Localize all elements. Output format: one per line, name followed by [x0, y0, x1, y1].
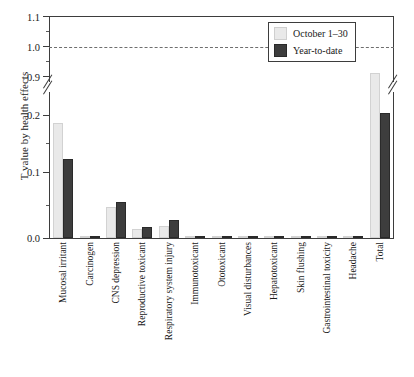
- x-label-cell: Carcinogen: [76, 240, 102, 376]
- bar-year-to-date: [327, 236, 337, 238]
- x-tick-label: Total: [375, 242, 385, 261]
- bar-year-to-date: [353, 236, 363, 238]
- bar-october: [185, 236, 195, 238]
- legend-swatch-october: [274, 27, 287, 40]
- bar-group: [182, 17, 208, 238]
- legend-label-october: October 1–30: [293, 28, 348, 39]
- x-tick-label: Headache: [348, 242, 358, 279]
- bar-year-to-date: [142, 227, 152, 238]
- bar-group: [208, 17, 234, 238]
- x-label-cell: Total: [367, 240, 393, 376]
- bar-group: [50, 17, 76, 238]
- chart-legend: October 1–30 Year-to-date: [268, 22, 356, 62]
- x-label-cell: Ototoxicant: [208, 240, 234, 376]
- x-tick-label: Mucosal irritant: [58, 242, 68, 303]
- bar-group: [76, 17, 102, 238]
- legend-swatch-year-to-date: [274, 44, 287, 57]
- bar-october: [132, 229, 142, 238]
- x-tick-label: Carcinogen: [85, 242, 95, 286]
- bar-october: [370, 73, 380, 238]
- bar-october: [343, 236, 353, 238]
- bar-october: [80, 236, 90, 238]
- x-tick-label: Reproductive toxicant: [137, 242, 147, 326]
- bar-group: [156, 17, 182, 238]
- x-label-cell: Respiratory system injury: [156, 240, 182, 376]
- bar-year-to-date: [63, 159, 73, 238]
- bar-year-to-date: [195, 236, 205, 238]
- legend-item-october: October 1–30: [274, 27, 348, 40]
- y-tick-label-0-2: 0.2: [8, 110, 40, 121]
- x-axis-line: [49, 238, 394, 239]
- x-tick-label: Gastrointestinal toxicity: [322, 242, 332, 334]
- x-tick-label: Skin flushing: [296, 242, 306, 293]
- bar-group: [129, 17, 155, 238]
- bar-year-to-date: [380, 113, 390, 238]
- x-tick-label: Ototoxicant: [217, 242, 227, 287]
- chart-figure: T value by health effects 1.1 1.0 0.9 0.…: [0, 0, 414, 377]
- x-label-cell: Headache: [340, 240, 366, 376]
- x-label-cell: Gastrointestinal toxicity: [314, 240, 340, 376]
- x-tick-label: Visual disturbances: [243, 242, 253, 316]
- bar-year-to-date: [248, 236, 258, 238]
- bar-october: [53, 123, 63, 238]
- x-label-cell: Mucosal irritant: [50, 240, 76, 376]
- x-label-cell: Hepatotoxicant: [261, 240, 287, 376]
- x-label-cell: CNS depression: [103, 240, 129, 376]
- bar-year-to-date: [222, 236, 232, 238]
- x-axis-labels: Mucosal irritantCarcinogenCNS depression…: [50, 240, 393, 376]
- y-tick-label-0-1: 0.1: [8, 167, 40, 178]
- y-tick-label-0-9: 0.9: [8, 72, 40, 83]
- x-label-cell: Immunotoxicant: [182, 240, 208, 376]
- bar-year-to-date: [274, 236, 284, 238]
- bar-year-to-date: [116, 202, 126, 238]
- legend-label-year-to-date: Year-to-date: [293, 45, 342, 56]
- bar-year-to-date: [169, 220, 179, 238]
- bar-october: [317, 236, 327, 238]
- legend-item-year-to-date: Year-to-date: [274, 44, 348, 57]
- bar-year-to-date: [90, 236, 100, 238]
- y-tick-label-1-1: 1.1: [8, 12, 40, 23]
- bar-october: [106, 207, 116, 238]
- x-tick-label: Hepatotoxicant: [269, 242, 279, 300]
- x-label-cell: Skin flushing: [288, 240, 314, 376]
- y-tick-label-0-0: 0.0: [8, 233, 40, 244]
- bar-october: [291, 236, 301, 238]
- bar-year-to-date: [301, 236, 311, 238]
- bar-group: [103, 17, 129, 238]
- bar-october: [264, 236, 274, 238]
- x-tick-label: CNS depression: [111, 242, 121, 304]
- bar-group: [367, 17, 393, 238]
- x-label-cell: Visual disturbances: [235, 240, 261, 376]
- bar-october: [159, 226, 169, 238]
- x-tick-label: Respiratory system injury: [164, 242, 174, 340]
- bar-group: [235, 17, 261, 238]
- bar-october: [238, 236, 248, 238]
- x-label-cell: Reproductive toxicant: [129, 240, 155, 376]
- bar-october: [212, 236, 222, 238]
- y-axis-label: T value by health effects: [18, 46, 30, 206]
- x-tick-label: Immunotoxicant: [190, 242, 200, 305]
- y-tick-label-1-0: 1.0: [8, 42, 40, 53]
